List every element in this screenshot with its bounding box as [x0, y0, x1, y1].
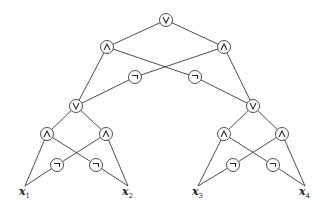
not-gate-node [189, 71, 202, 84]
edge-g0-g2 [166, 20, 224, 47]
and-gate-node [41, 128, 54, 141]
leaf-x1: x1 [19, 186, 30, 200]
and-gate-node [101, 41, 114, 54]
gate-circle [100, 128, 113, 141]
and-gate-node [100, 128, 113, 141]
and-gate-node [218, 41, 231, 54]
not-gate-node [267, 159, 280, 172]
edge-g2-g6 [224, 47, 253, 106]
edge-g2-g3 [135, 47, 224, 77]
edge-g7-x1 [25, 134, 47, 186]
not-gate-node [129, 71, 142, 84]
leaf-subscript: 3 [199, 192, 203, 200]
gate-circle [218, 41, 231, 54]
or-gate-node [70, 100, 83, 113]
gate-circle [227, 159, 240, 172]
nodes-layer [41, 14, 289, 172]
gate-circle [129, 71, 142, 84]
edge-g1-g5 [76, 47, 107, 106]
and-gate-node [276, 128, 289, 141]
leaf-subscript: 1 [26, 192, 30, 200]
leaf-subscript: 4 [306, 192, 310, 200]
gate-circle [218, 128, 231, 141]
leaf-subscript: 2 [129, 192, 133, 200]
gate-circle [247, 100, 260, 113]
gate-circle [189, 71, 202, 84]
edge-g8-x2 [106, 134, 128, 186]
not-gate-node [227, 159, 240, 172]
not-gate-node [90, 159, 103, 172]
leaf-x3: x3 [192, 186, 203, 200]
edge-g0-g1 [107, 20, 166, 47]
not-gate-node [51, 159, 64, 172]
gate-circle [267, 159, 280, 172]
gate-circle [101, 41, 114, 54]
or-gate-node [247, 100, 260, 113]
and-gate-node [218, 128, 231, 141]
gate-circle [51, 159, 64, 172]
gate-circle [41, 128, 54, 141]
gate-circle [276, 128, 289, 141]
edges-layer [25, 20, 305, 186]
leaf-x4: x4 [299, 186, 310, 200]
boolean-circuit-diagram [0, 0, 325, 203]
or-gate-node [160, 14, 173, 27]
edge-g4-g6 [195, 77, 253, 106]
gate-circle [90, 159, 103, 172]
gate-circle [160, 14, 173, 27]
edge-g1-g4 [107, 47, 195, 77]
gate-circle [70, 100, 83, 113]
edge-g3-g5 [76, 77, 135, 106]
leaf-x2: x2 [122, 186, 133, 200]
